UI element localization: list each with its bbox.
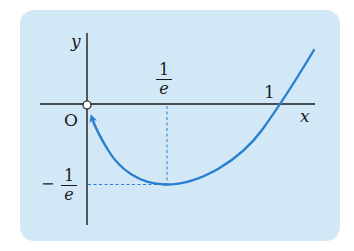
x-min-point-label: 1 e: [156, 62, 172, 97]
origin-open-circle: [83, 101, 91, 109]
fraction-denominator: e: [64, 186, 73, 203]
x-root-label: 1: [264, 84, 275, 101]
fraction-denominator: e: [159, 80, 168, 97]
fraction-numerator: 1: [156, 62, 172, 79]
x-axis-label: x: [300, 108, 310, 125]
y-min-value-label: 1 e: [61, 168, 77, 203]
fraction-numerator: 1: [61, 168, 77, 185]
curve-x-ln-x-right: [165, 50, 314, 185]
negative-sign: −: [41, 176, 54, 192]
curve-x-ln-x: [92, 118, 165, 185]
y-axis-label: y: [71, 33, 81, 50]
origin-label: O: [64, 112, 78, 129]
